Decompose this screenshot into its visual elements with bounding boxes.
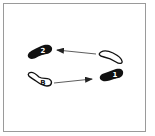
foot-2-icon: 2 [28,45,52,59]
foot-2-label: 2 [41,47,46,55]
foot-1-icon: 1 [100,69,123,82]
foot-start-outline-icon [99,51,122,63]
footwork-diagram: 2 B 1 [0,0,155,136]
foot-b-icon: B [28,72,51,86]
arrow-b-to-1 [54,79,92,83]
foot-b-label: B [40,79,45,87]
foot-1-label: 1 [113,71,118,79]
arrow-to-2 [57,50,96,54]
